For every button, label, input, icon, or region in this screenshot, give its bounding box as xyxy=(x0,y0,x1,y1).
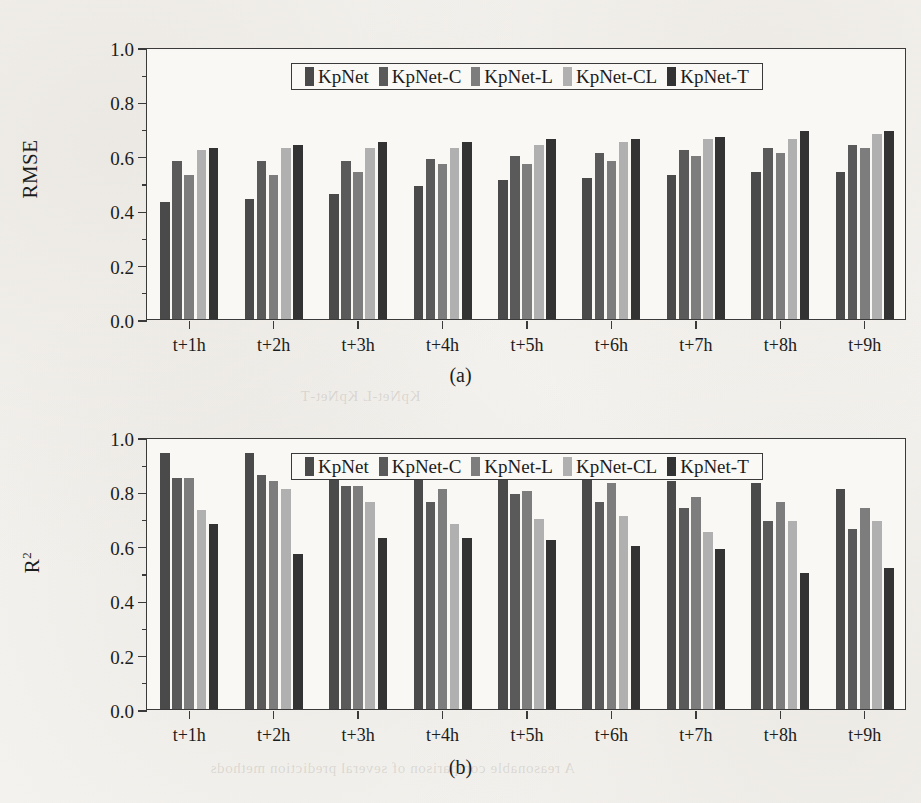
bar xyxy=(860,508,870,709)
bar xyxy=(438,489,448,709)
x-tick-label: t+2h xyxy=(257,725,290,746)
legend-label: KpNet-L xyxy=(484,457,553,476)
bar xyxy=(353,486,363,709)
bar xyxy=(281,148,291,319)
bar xyxy=(510,156,520,319)
bar xyxy=(763,148,773,319)
caption-b: (b) xyxy=(0,756,921,779)
bar xyxy=(281,489,291,709)
x-tick xyxy=(442,711,443,719)
bar xyxy=(631,139,641,319)
y-tick-major xyxy=(138,212,147,213)
legend-swatch-icon xyxy=(305,67,314,86)
legend-item[interactable]: KpNet-L xyxy=(466,457,558,476)
legend-item[interactable]: KpNet-T xyxy=(662,67,754,86)
bar xyxy=(329,194,339,319)
bar xyxy=(703,139,713,319)
bar xyxy=(848,529,858,709)
bar xyxy=(619,516,629,709)
bar xyxy=(800,131,810,319)
bar xyxy=(450,148,460,319)
x-tick-label: t+7h xyxy=(679,725,712,746)
figure-two-panel-bar-charts: KpNet-L KpNet-T A reasonable comparison … xyxy=(0,0,921,803)
bar xyxy=(197,150,207,319)
x-tick-label: t+2h xyxy=(257,335,290,356)
bar xyxy=(257,475,267,709)
bar xyxy=(184,175,194,319)
y-tick-minor xyxy=(142,466,147,467)
bar xyxy=(800,573,810,709)
legend-item[interactable]: KpNet-CL xyxy=(558,457,662,476)
bar xyxy=(209,524,219,709)
x-tick xyxy=(611,711,612,719)
bar xyxy=(450,524,460,709)
legend: KpNetKpNet-CKpNet-LKpNet-CLKpNet-T xyxy=(291,453,763,480)
x-tick xyxy=(864,321,865,329)
legend-item[interactable]: KpNet-L xyxy=(466,67,558,86)
y-tick-major xyxy=(138,602,147,603)
legend-item[interactable]: KpNet-C xyxy=(374,67,467,86)
bar xyxy=(245,453,255,709)
bar xyxy=(378,142,388,319)
y-tick-major xyxy=(138,493,147,494)
x-tick-label: t+4h xyxy=(426,335,459,356)
bar xyxy=(510,494,520,709)
x-tick-label: t+1h xyxy=(173,335,206,356)
bar xyxy=(341,486,351,709)
y-tick-label: 0.6 xyxy=(110,538,134,557)
bar xyxy=(679,508,689,709)
bar xyxy=(884,568,894,709)
y-tick-minor xyxy=(142,76,147,77)
y-tick-major xyxy=(138,48,147,49)
bar xyxy=(776,153,786,319)
bar xyxy=(788,521,798,709)
y-tick-label: 0.2 xyxy=(110,257,134,276)
x-tick xyxy=(189,321,190,329)
legend-item[interactable]: KpNet-T xyxy=(662,457,754,476)
x-tick xyxy=(189,711,190,719)
y-tick-label: 0.4 xyxy=(110,203,134,222)
legend-swatch-icon xyxy=(305,457,314,476)
bar xyxy=(197,510,207,709)
bar xyxy=(414,467,424,709)
bar xyxy=(703,532,713,709)
legend-swatch-icon xyxy=(563,457,572,476)
y-axis-label-r2: R2 xyxy=(0,530,60,590)
x-tick xyxy=(442,321,443,329)
x-tick-label: t+3h xyxy=(342,725,375,746)
y-tick-label: 0.8 xyxy=(110,94,134,113)
bar xyxy=(160,453,170,709)
bar xyxy=(498,467,508,709)
bar xyxy=(595,153,605,319)
bar xyxy=(619,142,629,319)
x-tick xyxy=(526,321,527,329)
x-tick-label: t+8h xyxy=(764,335,797,356)
bar xyxy=(293,145,303,319)
bar xyxy=(691,156,701,319)
legend-label: KpNet-T xyxy=(680,67,749,86)
legend-item[interactable]: KpNet-CL xyxy=(558,67,662,86)
legend-label: KpNet-L xyxy=(484,67,553,86)
bar xyxy=(715,137,725,319)
bar xyxy=(691,497,701,709)
bar xyxy=(160,202,170,319)
bar xyxy=(715,549,725,709)
y-tick-label: 0.4 xyxy=(110,593,134,612)
legend-swatch-icon xyxy=(667,67,676,86)
bar xyxy=(365,502,375,709)
x-tick xyxy=(695,321,696,329)
x-tick-label: t+8h xyxy=(764,725,797,746)
legend-item[interactable]: KpNet xyxy=(300,67,374,86)
legend-item[interactable]: KpNet xyxy=(300,457,374,476)
y-axis-label-rmse: RMSE xyxy=(0,139,60,199)
y-tick-major xyxy=(138,710,147,711)
y-tick-major xyxy=(138,103,147,104)
bar xyxy=(462,538,472,709)
legend-label: KpNet-CL xyxy=(576,67,657,86)
legend-item[interactable]: KpNet-C xyxy=(374,457,467,476)
bar xyxy=(534,519,544,709)
x-tick-label: t+9h xyxy=(848,725,881,746)
x-tick xyxy=(780,711,781,719)
bar xyxy=(438,164,448,319)
plot-area-a: 0.00.20.40.60.81.0t+1ht+2ht+3ht+4ht+5ht+… xyxy=(146,48,906,320)
